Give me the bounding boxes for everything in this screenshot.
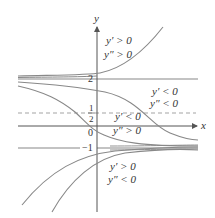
curve-above-2	[18, 27, 163, 76]
x-axis-label: x	[200, 119, 206, 131]
region-right-ydoubleprime: y″ < 0	[149, 97, 178, 109]
tick-label-half-denominator: 2	[89, 114, 94, 124]
solution-curves-diagram: y x 0 2 −1 1 2 y′ > 0 y″ > 0 y′ < 0 y″ <…	[0, 0, 215, 218]
region-top-ydoubleprime: y″ > 0	[103, 48, 132, 60]
region-top-yprime: y′ > 0	[105, 34, 132, 46]
origin-label: 0	[88, 127, 93, 138]
tick-label-half-numerator: 1	[89, 103, 94, 113]
region-right-yprime: y′ < 0	[151, 85, 178, 97]
tick-label-2: 2	[88, 73, 93, 84]
tick-label-neg1: −1	[82, 142, 93, 153]
region-center-yprime: y′ < 0	[114, 110, 141, 122]
region-center-ydoubleprime: y″ > 0	[112, 124, 141, 136]
region-bottom-yprime: y′ > 0	[109, 160, 136, 172]
y-axis-label: y	[93, 12, 99, 24]
region-bottom-ydoubleprime: y″ < 0	[107, 173, 136, 185]
